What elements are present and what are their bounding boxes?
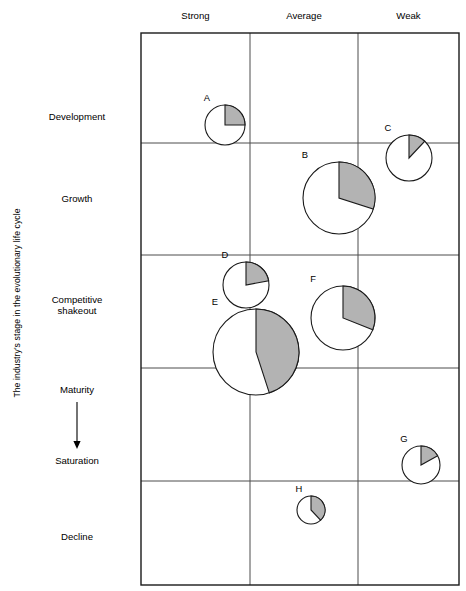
life-cycle-portfolio-matrix: The industry's stage in the evolutionary… xyxy=(0,0,466,591)
bubble-b[interactable]: B xyxy=(302,149,375,234)
bubble-c[interactable]: C xyxy=(385,122,432,181)
bubble-label: D xyxy=(222,249,229,260)
bubble-label: H xyxy=(296,483,303,494)
axis-arrows xyxy=(73,402,80,449)
bubble-label: C xyxy=(385,122,392,133)
bubble-label: G xyxy=(400,433,407,444)
bubble-label: B xyxy=(302,149,308,160)
plot-area: ABCDEFGH xyxy=(0,0,466,591)
bubble-f[interactable]: F xyxy=(310,273,375,350)
bubble-d[interactable]: D xyxy=(222,249,269,308)
bubble-label: F xyxy=(310,273,316,284)
bubble-label: A xyxy=(204,92,211,103)
arrow-head-icon xyxy=(73,441,80,449)
bubble-share-wedge xyxy=(246,262,269,285)
bubble-label: E xyxy=(212,296,218,307)
bubble-g[interactable]: G xyxy=(400,433,440,484)
bubble-a[interactable]: A xyxy=(204,92,245,145)
bubble-e[interactable]: E xyxy=(212,296,299,395)
bubble-series: ABCDEFGH xyxy=(204,92,440,524)
bubble-share-wedge xyxy=(225,105,245,125)
bubble-h[interactable]: H xyxy=(296,483,325,524)
